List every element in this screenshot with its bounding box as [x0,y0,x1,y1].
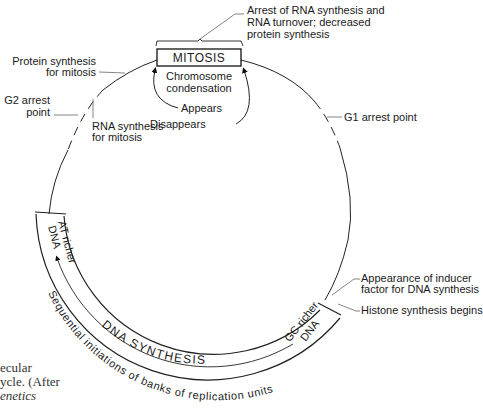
svg-text:G2 arrest: G2 arrest [4,94,50,106]
condensation-label: condensation [166,82,231,94]
appears-label: Appears [181,102,222,114]
figure-caption: ecular ycle. (After enetics [0,360,61,403]
disappears-arrow-icon [236,70,249,124]
svg-text:ycle. (After: ycle. (After [0,374,61,389]
arrest-rna-leader [200,14,244,39]
inducer-annotation: Appearance of inducer factor for DNA syn… [332,272,479,295]
mitosis-label: MITOSIS [173,51,226,65]
svg-text:G1 arrest point: G1 arrest point [344,111,417,123]
svg-text:factor for DNA synthesis: factor for DNA synthesis [361,283,479,295]
mitosis-bracket [156,39,243,46]
gc-richer-dna-label: GC richer DNA [282,299,330,351]
svg-text:protein synthesis: protein synthesis [247,28,330,40]
histone-annotation: Histone synthesis begins [338,304,483,316]
rna-synthesis-annotation: RNA synthesis for mitosis [92,99,164,143]
svg-text:for mitosis: for mitosis [92,131,143,143]
svg-text:RNA turnover; decreased: RNA turnover; decreased [247,16,371,28]
svg-text:Arrest of RNA synthesis and: Arrest of RNA synthesis and [247,4,385,16]
svg-text:point: point [26,106,50,118]
g1-arrest-annotation: G1 arrest point [327,111,417,123]
svg-text:ecular: ecular [0,360,32,375]
cell-cycle-circle [49,60,351,300]
svg-text:for mitosis: for mitosis [46,66,97,78]
sequential-initiations-label: Sequential initiations of banks of repli… [46,288,274,402]
svg-text:enetics: enetics [0,388,36,403]
protein-synthesis-annotation: Protein synthesis for mitosis [12,55,125,78]
at-richer-dna-label: AT richer DNA [45,219,79,267]
cell-cycle-diagram: AT richer DNA GC richer DNA DNA SYNTHESI… [0,0,483,413]
svg-text:Histone synthesis begins: Histone synthesis begins [361,304,483,316]
arrest-rna-annotation: Arrest of RNA synthesis and RNA turnover… [247,4,385,40]
g2-arrest-annotation: G2 arrest point [4,94,78,118]
mitosis-box: MITOSIS [157,49,241,66]
chromosome-label: Chromosome [166,70,232,82]
